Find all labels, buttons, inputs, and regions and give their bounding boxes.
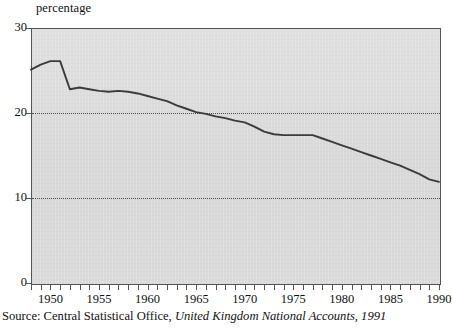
- series-path-percentage: [31, 61, 439, 182]
- x-tick-mark-1950: [50, 285, 51, 290]
- data-series-line: [31, 28, 440, 284]
- x-tick-mark-1970: [245, 285, 246, 290]
- x-tick-mark-1983: [371, 285, 372, 290]
- x-tick-mark-1960: [148, 285, 149, 290]
- x-tick-mark-1977: [313, 285, 314, 290]
- x-tick-mark-1952: [70, 285, 71, 290]
- x-tick-mark-1967: [216, 285, 217, 290]
- x-tick-mark-1981: [352, 285, 353, 290]
- x-tick-mark-1985: [390, 285, 391, 290]
- chart-figure: percentage 0102030 195019551960196519701…: [0, 0, 452, 330]
- x-tick-mark-1989: [429, 285, 430, 290]
- x-tick-mark-1976: [303, 285, 304, 290]
- x-tick-mark-1954: [89, 285, 90, 290]
- x-tick-mark-1990: [439, 285, 440, 290]
- x-tick-mark-1971: [254, 285, 255, 290]
- x-tick-mark-1961: [157, 285, 158, 290]
- x-tick-mark-1973: [274, 285, 275, 290]
- x-tick-mark-1949: [41, 285, 42, 290]
- x-tick-mark-1964: [186, 285, 187, 290]
- x-tick-mark-1987: [410, 285, 411, 290]
- x-tick-label-1985: 1985: [370, 292, 410, 306]
- x-tick-mark-1959: [138, 285, 139, 290]
- x-tick-mark-1965: [196, 285, 197, 290]
- plot-frame-right: [440, 28, 441, 285]
- x-tick-mark-1958: [128, 285, 129, 290]
- x-tick-mark-1963: [177, 285, 178, 290]
- x-tick-mark-1980: [342, 285, 343, 290]
- x-tick-mark-1978: [322, 285, 323, 290]
- x-tick-mark-1962: [167, 285, 168, 290]
- x-tick-label-1980: 1980: [322, 292, 362, 306]
- x-tick-mark-1953: [80, 285, 81, 290]
- x-tick-mark-1972: [264, 285, 265, 290]
- source-publication: United Kingdom National Accounts, 1991: [175, 309, 386, 323]
- y-axis-label: percentage: [36, 2, 91, 15]
- x-tick-mark-1986: [400, 285, 401, 290]
- y-tick-label-0: 0: [0, 276, 27, 288]
- y-tick-label-30: 30: [0, 21, 27, 33]
- x-tick-label-1955: 1955: [79, 292, 119, 306]
- x-tick-mark-1966: [206, 285, 207, 290]
- x-tick-mark-1951: [60, 285, 61, 290]
- x-tick-mark-1948: [31, 285, 32, 290]
- x-tick-mark-1988: [420, 285, 421, 290]
- x-tick-mark-1979: [332, 285, 333, 290]
- x-tick-mark-1956: [109, 285, 110, 290]
- x-tick-mark-1969: [235, 285, 236, 290]
- x-tick-mark-1968: [225, 285, 226, 290]
- x-tick-label-1990: 1990: [419, 292, 452, 306]
- x-tick-label-1975: 1975: [273, 292, 313, 306]
- x-tick-label-1950: 1950: [30, 292, 70, 306]
- x-tick-mark-1974: [284, 285, 285, 290]
- y-tick-label-10: 10: [0, 191, 27, 203]
- x-tick-mark-1982: [361, 285, 362, 290]
- x-tick-mark-1955: [99, 285, 100, 290]
- x-axis-line: [31, 284, 441, 285]
- source-prefix: Source: Central Statistical Office,: [2, 309, 172, 323]
- y-tick-label-20: 20: [0, 106, 27, 118]
- x-tick-mark-1957: [118, 285, 119, 290]
- source-note: Source: Central Statistical Office, Unit…: [2, 309, 386, 324]
- x-tick-label-1960: 1960: [128, 292, 168, 306]
- x-tick-label-1965: 1965: [176, 292, 216, 306]
- x-tick-label-1970: 1970: [225, 292, 265, 306]
- x-tick-mark-1975: [293, 285, 294, 290]
- x-tick-mark-1984: [381, 285, 382, 290]
